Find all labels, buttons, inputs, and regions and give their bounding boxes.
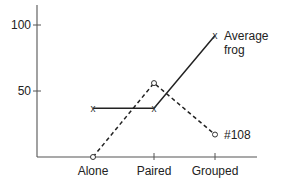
series-108: #108 bbox=[91, 81, 252, 160]
x-tick-label-grouped: Grouped bbox=[192, 164, 239, 178]
y-tick-label-100: 100 bbox=[11, 18, 31, 32]
line-108 bbox=[93, 83, 215, 157]
line-chart: 50100 AlonePairedGrouped xxxAveragefrog#… bbox=[0, 0, 283, 188]
point-average-frog-alone: x bbox=[91, 103, 96, 114]
series-average-frog: xxxAveragefrog bbox=[91, 29, 269, 114]
series-label-average-frog: frog bbox=[224, 43, 245, 57]
line-average-frog bbox=[93, 36, 215, 109]
series-label-average-frog: Average bbox=[224, 29, 269, 43]
x-tick-label-alone: Alone bbox=[78, 164, 109, 178]
point-average-frog-paired: x bbox=[152, 103, 157, 114]
y-tick-label-50: 50 bbox=[18, 84, 32, 98]
x-tick-label-paired: Paired bbox=[137, 164, 172, 178]
point-108-paired bbox=[152, 81, 157, 86]
point-108-grouped bbox=[213, 132, 218, 137]
point-108-alone bbox=[91, 155, 96, 160]
series-label-108: #108 bbox=[224, 128, 251, 142]
point-average-frog-grouped: x bbox=[213, 30, 218, 41]
